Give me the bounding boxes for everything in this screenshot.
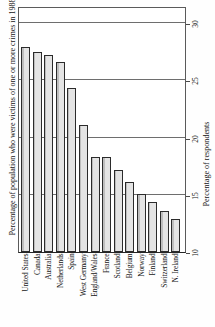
x-category-label: Norway <box>135 254 146 326</box>
y-tick-mark <box>186 81 190 82</box>
bar <box>21 47 30 252</box>
x-category-label: United States <box>20 254 31 326</box>
bar-slot <box>159 8 171 252</box>
y-axis-title-right: Percentage of respondents <box>201 94 213 234</box>
bar-slot <box>101 8 113 252</box>
bar-slot <box>66 8 78 252</box>
x-category-slot: Australia <box>42 254 54 327</box>
x-category-label: France <box>100 254 111 326</box>
bar-slot <box>32 8 44 252</box>
y-tick-label: 30 <box>191 16 201 32</box>
x-category-label: Switzerland <box>158 254 169 326</box>
x-category-slot: United States <box>19 254 31 327</box>
plot-area <box>18 7 186 253</box>
bar <box>56 62 65 252</box>
x-category-slot: France <box>100 254 112 327</box>
bar-slot <box>89 8 101 252</box>
x-category-label: Australia <box>43 254 54 326</box>
bar <box>91 157 100 252</box>
bar <box>125 182 134 252</box>
y-tick-mark <box>186 24 190 25</box>
x-category-slot: Norway <box>135 254 147 327</box>
bar-series <box>19 8 185 252</box>
chart-figure: Percentage of population who were victim… <box>0 0 215 327</box>
bar-slot <box>124 8 136 252</box>
bar <box>171 219 180 252</box>
x-category-slot: Scotland <box>111 254 123 327</box>
x-category-slot: West Germany <box>77 254 89 327</box>
x-category-label: Netherlands <box>54 254 65 326</box>
bar-slot <box>43 8 55 252</box>
bar-slot <box>112 8 124 252</box>
bar <box>137 194 146 252</box>
bar <box>148 202 157 252</box>
x-category-label: N. Ireland <box>170 254 181 326</box>
x-category-slot: Switzerland <box>158 254 170 327</box>
x-category-label: West Germany <box>77 254 88 326</box>
x-category-label: Spain <box>66 254 77 326</box>
x-category-label: Scotland <box>112 254 123 326</box>
bar-slot <box>55 8 67 252</box>
x-category-label: Canada <box>31 254 42 326</box>
x-category-label: Belgium <box>123 254 134 326</box>
y-tick-label: 20 <box>191 131 201 147</box>
y-tick-mark <box>186 139 190 140</box>
x-category-slot: Canada <box>31 254 43 327</box>
bar <box>102 157 111 252</box>
x-category-label: England/Wales <box>89 254 100 326</box>
bar <box>114 170 123 252</box>
x-category-slot: Netherlands <box>54 254 66 327</box>
x-category-label: Finland <box>147 254 158 326</box>
x-category-slot: England/Wales <box>88 254 100 327</box>
bar-slot <box>170 8 182 252</box>
x-category-slot: Finland <box>146 254 158 327</box>
bar <box>33 52 42 252</box>
bar-slot <box>78 8 90 252</box>
bar-slot <box>147 8 159 252</box>
bar <box>67 88 76 252</box>
bar <box>44 55 53 252</box>
y-tick-label: 25 <box>191 73 201 89</box>
x-axis-category-labels: United StatesCanadaAustraliaNetherlandsS… <box>18 254 186 327</box>
bar <box>160 211 169 252</box>
bar-slot <box>135 8 147 252</box>
y-tick-label: 15 <box>191 188 201 204</box>
x-category-slot: Spain <box>65 254 77 327</box>
x-category-slot: N. Ireland <box>169 254 181 327</box>
y-tick-mark <box>186 196 190 197</box>
bar <box>79 125 88 252</box>
x-category-slot: Belgium <box>123 254 135 327</box>
bar-slot <box>20 8 32 252</box>
y-tick-mark <box>186 253 190 254</box>
y-tick-label: 10 <box>191 245 201 261</box>
